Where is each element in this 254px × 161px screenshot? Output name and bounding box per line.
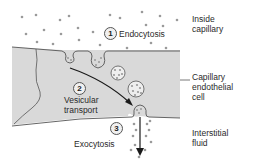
label-line: Capillary — [192, 72, 233, 82]
step-label: Endocytosis — [119, 29, 165, 39]
label-line: fluid — [192, 138, 228, 148]
step-number-badge: 1 — [104, 27, 117, 40]
vesicle — [128, 81, 144, 97]
step-number-badge: 2 — [73, 82, 86, 95]
step-number-badge: 3 — [110, 122, 123, 135]
step-label: Exocytosis — [74, 139, 115, 149]
arrowhead-icon — [136, 148, 144, 156]
label-line: capillary — [192, 24, 223, 34]
step-endocytosis: 1 Endocytosis — [104, 27, 165, 40]
label-interstitial-fluid: Interstitial fluid — [192, 128, 228, 148]
step-vesicular-transport: 2 Vesicular transport — [64, 82, 99, 115]
step-label: transport — [64, 105, 99, 115]
label-line: Interstitial — [192, 128, 228, 138]
label-inside-capillary: Inside capillary — [192, 14, 223, 34]
label-line: Inside — [192, 14, 223, 24]
label-endothelial-cell: Capillary endothelial cell — [192, 72, 233, 102]
label-line: cell — [192, 92, 233, 102]
step-label: Vesicular — [64, 95, 99, 105]
vesicle — [111, 66, 125, 80]
label-line: endothelial — [192, 82, 233, 92]
